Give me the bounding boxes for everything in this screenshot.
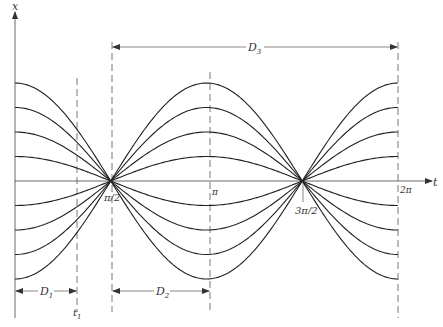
tick-two-pi: 2π [399,185,413,195]
tick-half-pi: π/2 [103,192,120,203]
cosine-family-diagram: x t π/2 π 3π/2 2π D3 D1 D2 t1 [0,0,443,327]
tick-pi: π [211,187,219,197]
tick-three-half-pi: 3π/2 [295,205,318,216]
t-axis-label: t [433,176,438,189]
y-axis-label: x [12,0,19,13]
diagram-container: x t π/2 π 3π/2 2π D3 D1 D2 t1 [0,0,443,327]
